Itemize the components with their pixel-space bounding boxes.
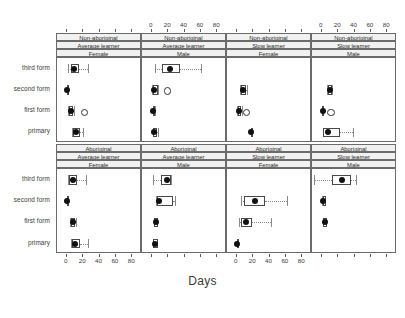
whisker-high <box>180 69 200 70</box>
x-tick-top-c3-1 <box>337 29 338 32</box>
whisker-cap-high <box>86 175 87 185</box>
outlier-p2-1-0 <box>164 87 171 94</box>
x-tick-bot-c3-0 <box>321 254 322 257</box>
whisker-low <box>314 180 333 181</box>
x-axis-label: Days <box>0 274 405 288</box>
median-dot-p2-0 <box>167 66 173 72</box>
strip-label-p3-0: Non-aboriginal <box>226 33 311 41</box>
median-dot-p7-1 <box>252 198 258 204</box>
whisker-high <box>340 132 353 133</box>
x-tick-bot-c3-2 <box>354 254 355 257</box>
median-dot-p1-0 <box>71 66 77 72</box>
panel-p7 <box>226 168 311 253</box>
panel-p2 <box>141 57 226 142</box>
whisker-cap-high <box>171 175 172 185</box>
x-tick-top-c3-4 <box>386 29 387 32</box>
strip-label-p2-2: Male <box>141 49 226 57</box>
whisker-cap-low <box>68 64 69 74</box>
x-tick-bot-c1-0 <box>151 254 152 257</box>
strip-label-p2-0: Non-aboriginal <box>141 33 226 41</box>
x-tick-top-c2-1 <box>252 29 253 32</box>
x-tick-bot-c3-4 <box>386 254 387 257</box>
median-dot-p6-3 <box>152 241 158 247</box>
x-tick-label-bot-c0-1: 20 <box>73 257 91 264</box>
strip-label-p5-0: Aboriginal <box>56 144 141 152</box>
x-tick-label-top-c3-1: 20 <box>328 21 346 28</box>
x-tick-label-top-c1-3: 60 <box>191 21 209 28</box>
x-tick-label-top-c3-0: 0 <box>312 21 330 28</box>
whisker-high <box>252 222 272 223</box>
x-tick-label-bot-c2-1: 20 <box>243 257 261 264</box>
x-tick-bot-c3-3 <box>370 254 371 257</box>
whisker-cap-high <box>74 106 75 116</box>
whisker-low <box>155 69 162 70</box>
strip-label-p5-2: Female <box>56 160 141 168</box>
whisker-cap-high <box>356 175 357 185</box>
whisker-cap-low <box>314 175 315 185</box>
x-tick-top-c1-1 <box>167 29 168 32</box>
whisker-cap-high <box>271 218 272 228</box>
x-tick-label-top-c3-3: 60 <box>361 21 379 28</box>
median-dot-p3-1 <box>240 87 246 93</box>
x-tick-label-top-c1-0: 0 <box>142 21 160 28</box>
x-tick-top-c2-0 <box>236 29 237 32</box>
strip-label-p6-2: Male <box>141 160 226 168</box>
whisker-cap-low <box>241 196 242 206</box>
x-tick-label-bot-c2-0: 0 <box>227 257 245 264</box>
panel-p5 <box>56 168 141 253</box>
y-axis-label-second-form: second form <box>0 85 50 92</box>
median-dot-p6-0 <box>164 177 170 183</box>
strip-label-p3-1: Slow learner <box>226 41 311 49</box>
strip-label-p8-2: Male <box>311 160 396 168</box>
x-tick-top-c0-3 <box>115 29 116 32</box>
whisker-cap-high <box>88 64 89 74</box>
whisker-cap-high <box>88 239 89 249</box>
x-tick-label-top-c3-4: 80 <box>377 21 395 28</box>
y-axis-label-first-form: first form <box>0 217 50 224</box>
x-tick-label-bot-c0-3: 60 <box>106 257 124 264</box>
whisker-cap-low <box>239 218 240 228</box>
strip-label-p7-2: Female <box>226 160 311 168</box>
panel-p6 <box>141 168 226 253</box>
x-tick-label-bot-c0-2: 40 <box>90 257 108 264</box>
median-dot-p4-1 <box>327 87 333 93</box>
strip-label-p1-1: Average learner <box>56 41 141 49</box>
strip-label-p4-2: Male <box>311 49 396 57</box>
panel-p4 <box>311 57 396 142</box>
whisker-high <box>80 244 88 245</box>
strip-label-p1-2: Female <box>56 49 141 57</box>
median-dot-p5-2 <box>70 219 76 225</box>
x-tick-label-bot-c0-4: 80 <box>122 257 140 264</box>
panel-p3 <box>226 57 311 142</box>
x-tick-label-top-c1-4: 80 <box>207 21 225 28</box>
strip-label-p7-0: Aboriginal <box>226 144 311 152</box>
x-tick-label-bot-c2-2: 40 <box>260 257 278 264</box>
whisker-cap-high <box>175 196 176 206</box>
whisker-low <box>153 180 160 181</box>
x-tick-label-top-c1-2: 40 <box>175 21 193 28</box>
x-tick-top-c3-0 <box>321 29 322 32</box>
x-tick-label-bot-c2-4: 80 <box>292 257 310 264</box>
whisker-cap-high <box>247 85 248 95</box>
x-tick-top-c1-0 <box>151 29 152 32</box>
median-dot-p1-1 <box>64 87 70 93</box>
x-tick-top-c1-4 <box>216 29 217 32</box>
strip-label-p1-0: Non-aboriginal <box>56 33 141 41</box>
x-tick-label-bot-c2-3: 60 <box>276 257 294 264</box>
x-tick-top-c2-3 <box>285 29 286 32</box>
y-axis-label-primary: primary <box>0 239 50 246</box>
whisker-cap-high <box>158 128 159 138</box>
x-tick-bot-c1-2 <box>184 254 185 257</box>
x-tick-top-c2-4 <box>301 29 302 32</box>
y-axis-label-primary: primary <box>0 127 50 134</box>
whisker-cap-low <box>153 175 154 185</box>
strip-label-p6-0: Aboriginal <box>141 144 226 152</box>
whisker-cap-high <box>287 196 288 206</box>
strip-label-p4-1: Slow learner <box>311 41 396 49</box>
x-tick-label-top-c3-2: 40 <box>345 21 363 28</box>
x-tick-bot-c1-3 <box>200 254 201 257</box>
x-tick-top-c0-4 <box>131 29 132 32</box>
strip-label-p4-0: Non-aboriginal <box>311 33 396 41</box>
strip-label-p8-1: Slow learner <box>311 152 396 160</box>
whisker-cap-low <box>155 64 156 74</box>
